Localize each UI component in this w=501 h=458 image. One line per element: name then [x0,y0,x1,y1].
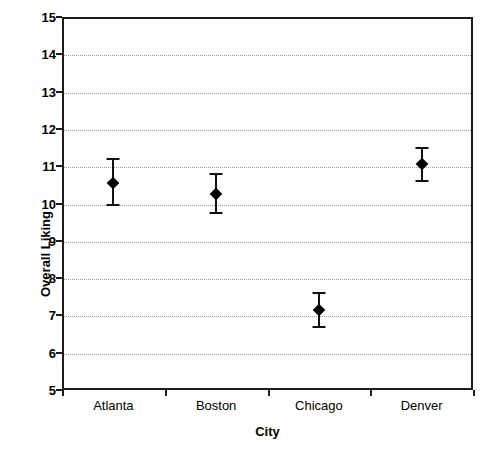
plot-area [62,17,473,390]
x-axis-tick-label-denver: Denver [367,399,477,413]
gridline [64,354,471,355]
error-bar-cap-lower [107,204,120,206]
y-axis-tick-label: 7 [30,309,56,322]
x-axis-tick-label-chicago: Chicago [264,399,374,413]
y-axis-tick-mark [56,165,62,167]
y-axis-tick-label: 10 [30,197,56,210]
error-bar-cap-upper [210,173,223,175]
y-axis-tick-mark [56,277,62,279]
y-axis-tick-label: 8 [30,272,56,285]
y-axis-tick-mark [56,128,62,130]
error-bar-cap-lower [312,326,325,328]
y-axis-tick-mark [56,53,62,55]
y-axis-tick-label: 15 [30,11,56,24]
error-bar-cap-lower [210,212,223,214]
error-bar-cap-upper [107,158,120,160]
y-axis-tick-mark [56,314,62,316]
x-axis-tick-mark [62,390,64,396]
gridline [64,242,471,243]
y-axis-tick-mark [56,16,62,18]
x-axis-tick-mark [165,390,167,396]
gridline [64,279,471,280]
error-bar-cap-upper [415,147,428,149]
y-axis-tick-mark [56,91,62,93]
gridline [64,130,471,131]
x-axis-title: City [62,424,473,439]
y-axis-tick-label: 11 [30,160,56,173]
y-axis-tick-mark [56,240,62,242]
y-axis-tick-label: 6 [30,346,56,359]
y-axis-tick-label: 9 [30,234,56,247]
x-axis-tick-label-atlanta: Atlanta [58,399,168,413]
x-axis-tick-mark [370,390,372,396]
y-axis-tick-labels: 15141312111098765 [26,0,56,458]
gridline [64,93,471,94]
y-axis-tick-label: 5 [30,384,56,397]
y-axis-tick-label: 14 [30,48,56,61]
x-axis-tick-mark [268,390,270,396]
error-bar-cap-upper [312,292,325,294]
error-bar-cap-lower [415,180,428,182]
y-axis-tick-mark [56,203,62,205]
gridline [64,55,471,56]
gridline [64,167,471,168]
x-axis-tick-mark [473,390,475,396]
x-axis-tick-label-boston: Boston [161,399,271,413]
chart-canvas: Overall Liking 15141312111098765 City At… [0,0,501,458]
gridline [64,316,471,317]
y-axis-tick-label: 13 [30,85,56,98]
y-axis-tick-mark [56,352,62,354]
gridline [64,205,471,206]
y-axis-tick-label: 12 [30,122,56,135]
